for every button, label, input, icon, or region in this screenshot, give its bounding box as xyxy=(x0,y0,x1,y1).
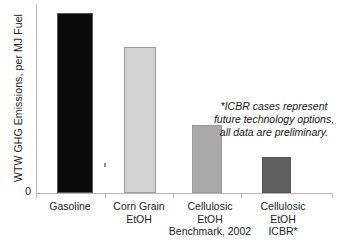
x-axis-tick xyxy=(36,194,37,198)
bar-corn-grain-etoh xyxy=(124,47,156,193)
x-axis-category-label-cellulosic-benchmark: Cellulosic EtOH Benchmark, 2002 xyxy=(168,200,252,238)
x-axis-line xyxy=(36,193,333,194)
x-axis-category-label-gasoline: Gasoline xyxy=(35,200,105,213)
x-axis-tick xyxy=(173,194,174,198)
x-axis-category-label-corn-grain-etoh: Corn Grain EtOH xyxy=(103,200,175,225)
bar-cellulosic-etoh-icbr xyxy=(262,157,291,193)
y-axis-title: WTW GHG Emissions, per MJ Fuel xyxy=(10,0,26,196)
scan-artifact xyxy=(104,163,106,167)
bar-chart: WTW GHG Emissions, per MJ Fuel 0 Gasolin… xyxy=(0,0,339,249)
x-axis-tick xyxy=(241,194,242,198)
x-axis-tick xyxy=(332,194,333,198)
y-axis-tick-label-0: 0 xyxy=(25,185,31,197)
chart-annotation: *ICBR cases represent future technology … xyxy=(210,100,338,139)
x-axis-category-label-cellulosic-icbr: Cellulosic EtOH ICBR* xyxy=(245,200,321,238)
plot-area xyxy=(37,4,333,193)
bar-gasoline xyxy=(57,13,93,193)
x-axis-tick xyxy=(105,194,106,198)
